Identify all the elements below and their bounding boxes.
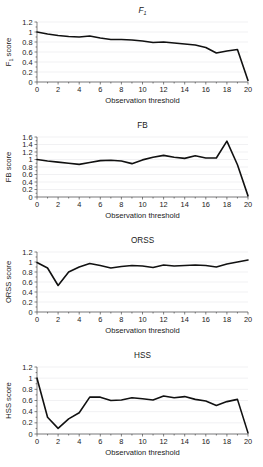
x-tick-label: 20: [244, 437, 252, 446]
y-tick-label: 1: [28, 28, 32, 37]
x-tick-label: 0: [35, 200, 39, 209]
y-tick-label: 0.6: [22, 396, 32, 405]
chart-f1: F100.20.40.60.811.202468101214161820Obse…: [0, 0, 263, 115]
series-line-orss: [37, 260, 248, 286]
x-tick-label: 12: [159, 85, 167, 94]
y-tick-label: 0: [28, 308, 32, 317]
y-tick-label: 1.2: [22, 363, 32, 372]
y-tick-label: 0: [28, 78, 32, 87]
x-tick-label: 10: [138, 437, 146, 446]
y-tick-label: 0.4: [22, 58, 32, 67]
panel-title-orss: ORSS: [131, 236, 155, 245]
x-tick-label: 18: [223, 85, 231, 94]
x-tick-label: 10: [138, 315, 146, 324]
y-tick-label: 1: [28, 374, 32, 383]
y-tick-label: 0.8: [22, 385, 32, 394]
x-tick-label: 2: [56, 200, 60, 209]
x-tick-label: 0: [35, 315, 39, 324]
y-tick-label: 0.4: [22, 288, 32, 297]
series-line-fb: [37, 141, 248, 196]
y-tick-label: 1: [28, 258, 32, 267]
y-tick-label: 0.2: [22, 68, 32, 77]
y-axis-label: HSS score: [4, 382, 13, 418]
x-tick-label: 8: [119, 85, 123, 94]
x-tick-label: 12: [159, 437, 167, 446]
x-tick-label: 6: [98, 200, 102, 209]
x-tick-label: 20: [244, 315, 252, 324]
y-tick-label: 0.8: [22, 268, 32, 277]
x-tick-label: 2: [56, 315, 60, 324]
panel-title-fb: FB: [137, 121, 148, 130]
y-axis-label-suffix: score: [4, 38, 13, 59]
y-tick-label: 1.2: [22, 248, 32, 257]
x-tick-label: 8: [119, 437, 123, 446]
x-tick-label: 16: [202, 315, 210, 324]
x-tick-label: 4: [77, 200, 81, 209]
x-tick-label: 4: [77, 85, 81, 94]
chart-fb: FB00.20.40.60.811.21.41.6024681012141618…: [0, 115, 263, 230]
panel-hss: HSS00.20.40.60.811.202468101214161820Obs…: [0, 345, 263, 467]
y-axis-label: ORSS score: [4, 261, 13, 303]
x-tick-label: 2: [56, 437, 60, 446]
x-tick-label: 14: [181, 85, 189, 94]
x-tick-label: 12: [159, 200, 167, 209]
x-tick-label: 8: [119, 200, 123, 209]
x-axis-label: Observation threshold: [105, 96, 179, 105]
panel-title-f1: F1: [138, 6, 146, 16]
x-tick-label: 14: [181, 315, 189, 324]
x-tick-label: 16: [202, 437, 210, 446]
y-tick-label: 0.6: [22, 278, 32, 287]
x-tick-label: 10: [138, 200, 146, 209]
series-line-hss: [37, 378, 248, 433]
panel-title-subscript: 1: [144, 10, 147, 16]
y-tick-label: 0: [28, 430, 32, 439]
y-tick-label: 0.2: [22, 418, 32, 427]
panel-orss: ORSS00.20.40.60.811.202468101214161820Ob…: [0, 230, 263, 345]
x-tick-label: 20: [244, 200, 252, 209]
x-tick-label: 20: [244, 85, 252, 94]
series-line-f1: [37, 32, 248, 81]
x-tick-label: 16: [202, 85, 210, 94]
x-tick-label: 18: [223, 437, 231, 446]
x-tick-label: 0: [35, 85, 39, 94]
x-axis-label: Observation threshold: [105, 326, 179, 335]
x-tick-label: 18: [223, 200, 231, 209]
x-tick-label: 6: [98, 315, 102, 324]
x-tick-label: 0: [35, 437, 39, 446]
x-tick-label: 16: [202, 200, 210, 209]
panel-fb: FB00.20.40.60.811.21.41.6024681012141618…: [0, 115, 263, 230]
x-tick-label: 10: [138, 85, 146, 94]
y-tick-label: 0.2: [22, 298, 32, 307]
panel-f1: F100.20.40.60.811.202468101214161820Obse…: [0, 0, 263, 115]
y-tick-label: 0.4: [22, 407, 32, 416]
y-tick-label: 1.2: [22, 18, 32, 27]
y-axis-label: FB score: [4, 152, 13, 182]
y-tick-label: 0.6: [22, 48, 32, 57]
x-tick-label: 2: [56, 85, 60, 94]
x-tick-label: 6: [98, 85, 102, 94]
x-tick-label: 4: [77, 315, 81, 324]
chart-orss: ORSS00.20.40.60.811.202468101214161820Ob…: [0, 230, 263, 345]
x-tick-label: 12: [159, 315, 167, 324]
score-panels-figure: F100.20.40.60.811.202468101214161820Obse…: [0, 0, 263, 467]
x-tick-label: 8: [119, 315, 123, 324]
y-axis-label: F1 score: [4, 38, 14, 66]
panel-title-hss: HSS: [134, 351, 151, 360]
x-tick-label: 14: [181, 200, 189, 209]
x-tick-label: 14: [181, 437, 189, 446]
y-tick-label: 0.8: [22, 38, 32, 47]
x-tick-label: 18: [223, 315, 231, 324]
x-axis-label: Observation threshold: [105, 448, 179, 457]
x-axis-label: Observation threshold: [105, 211, 179, 220]
x-tick-label: 6: [98, 437, 102, 446]
x-tick-label: 4: [77, 437, 81, 446]
y-tick-label: 1.6: [22, 133, 32, 142]
chart-hss: HSS00.20.40.60.811.202468101214161820Obs…: [0, 345, 263, 467]
